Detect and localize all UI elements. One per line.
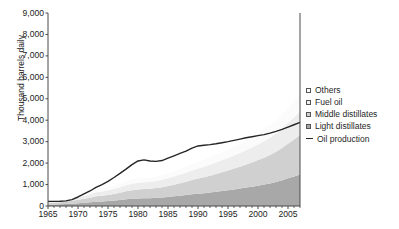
legend-item[interactable]: Others	[306, 84, 399, 96]
legend-label: Middle distillates	[315, 110, 377, 119]
legend-item[interactable]: Fuel oil	[306, 96, 399, 108]
legend-swatch	[306, 100, 311, 105]
chart-root: Thousand barrels daily 9,0008,0007,0006,…	[0, 0, 399, 229]
legend-swatch	[306, 124, 311, 129]
legend-swatch	[306, 112, 311, 117]
legend-label: Fuel oil	[315, 98, 342, 107]
legend-label: Others	[315, 86, 341, 95]
legend-label: Light distillates	[315, 122, 371, 131]
legend-label: Oil production	[317, 135, 369, 144]
legend-swatch	[306, 88, 311, 93]
legend-item[interactable]: Light distillates	[306, 121, 399, 133]
legend-item[interactable]: Middle distillates	[306, 108, 399, 120]
chart-legend: OthersFuel oilMiddle distillatesLight di…	[306, 84, 399, 145]
legend-line-sample	[306, 138, 313, 139]
legend-item[interactable]: Oil production	[306, 133, 399, 145]
area-layers	[48, 95, 300, 206]
